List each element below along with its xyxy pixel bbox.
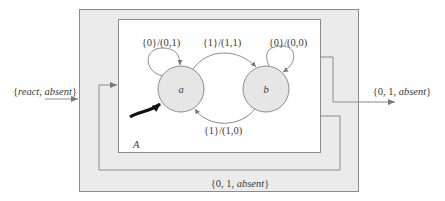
transition-b-self-label: {0}/(0,0) (269, 37, 308, 49)
state-b-label: b (263, 84, 268, 95)
input-label: {react, absent} (13, 86, 77, 97)
transition-a-to-b-label: {1}/(1,1) (203, 37, 242, 49)
feedback-label: {0, 1, absent} (211, 178, 270, 189)
output-label: {0, 1, absent} (373, 86, 432, 97)
transition-a-self-label: {0}/(0,1) (142, 37, 181, 49)
transition-b-to-a-label: {1}/(1,0) (204, 125, 243, 137)
block-name-label: A (132, 139, 140, 150)
state-a-label: a (178, 84, 183, 95)
state-machine-diagram: a b {0}/(0,1) {1}/(1,1) {0}/(0,0) {1}/(1… (0, 0, 445, 201)
